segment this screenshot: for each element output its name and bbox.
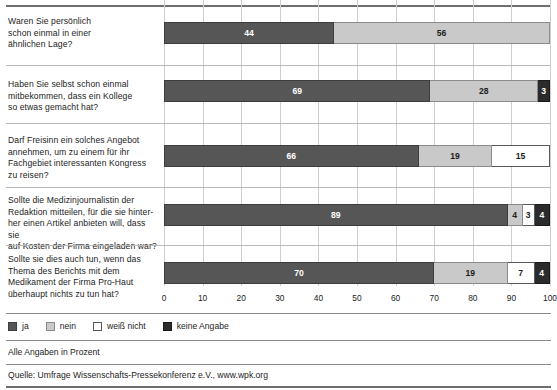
stacked-bar: 661915 (164, 145, 550, 167)
stacked-bar: 69283 (164, 80, 550, 102)
question-label: Haben Sie selbst schon einmalmitbekommen… (8, 79, 158, 114)
bar-segment-ja: 70 (164, 262, 434, 284)
bar-segment-keine: 3 (538, 80, 550, 102)
bar-segment-nein: 56 (334, 22, 550, 44)
legend-item-ja: ja (8, 321, 29, 331)
x-axis-tick: 30 (275, 293, 284, 303)
bar-segment-weissnicht: 3 (523, 204, 535, 226)
x-axis-tick: 90 (507, 293, 516, 303)
bar-segment-ja: 69 (164, 80, 430, 102)
legend-label: weiß nicht (107, 321, 146, 331)
x-axis-tick: 10 (198, 293, 207, 303)
legend-label: nein (60, 321, 76, 331)
bar-segment-nein: 19 (419, 145, 492, 167)
x-axis-tick: 100 (543, 293, 557, 303)
bar-segment-weissnicht: 15 (492, 145, 550, 167)
bar-segment-value: 4 (512, 210, 517, 220)
bar-segment-value: 4 (539, 210, 544, 220)
bar-segment-nein: 19 (434, 262, 507, 284)
bar-segment-value: 7 (518, 268, 523, 278)
bar-segment-value: 69 (292, 86, 302, 96)
bottom-divider (6, 386, 551, 388)
row-divider (6, 65, 551, 66)
bar-segment-value: 89 (331, 210, 341, 220)
x-axis-tick: 40 (314, 293, 323, 303)
legend-item-nein: nein (46, 321, 76, 331)
stacked-bar: 701974 (164, 262, 550, 284)
legend-label: ja (22, 321, 29, 331)
chart-legend: janeinweiß nichtkeine Angabe (8, 318, 246, 334)
chart-sheet: Waren Sie persönlichschon einmal in eine… (0, 0, 557, 390)
bar-segment-value: 28 (479, 86, 489, 96)
row-divider (6, 245, 551, 246)
bar-segment-value: 4 (539, 268, 544, 278)
row-divider (6, 187, 551, 188)
bar-segment-ja: 89 (164, 204, 508, 226)
x-axis-tick: 50 (352, 293, 361, 303)
bar-segment-keine: 4 (535, 204, 550, 226)
bar-segment-value: 15 (516, 151, 526, 161)
legend-item-weissnicht: weiß nicht (93, 321, 146, 331)
question-label: Sollte sie dies auch tun, wenn dasThema … (8, 254, 158, 300)
legend-swatch-ja (8, 322, 17, 331)
bar-segment-nein: 4 (508, 204, 523, 226)
x-axis-tick: 70 (430, 293, 439, 303)
bar-segment-weissnicht: 7 (508, 262, 535, 284)
bar-segment-value: 70 (294, 268, 304, 278)
bar-segment-value: 44 (244, 28, 254, 38)
bar-segment-value: 19 (466, 268, 476, 278)
legend-swatch-nein (46, 322, 55, 331)
source-note: Quelle: Umfrage Wissenschafts-Pressekonf… (8, 370, 268, 380)
legend-bottom-divider (6, 340, 551, 341)
bar-segment-value: 3 (526, 210, 531, 220)
legend-top-divider (6, 313, 551, 314)
bar-segment-nein: 28 (430, 80, 538, 102)
bar-segment-value: 3 (541, 86, 546, 96)
bar-segment-value: 66 (287, 151, 297, 161)
stacked-bar: 89434 (164, 204, 550, 226)
note-divider (6, 364, 551, 365)
x-axis-tick: 80 (468, 293, 477, 303)
x-axis: 0102030405060708090100 (164, 293, 550, 307)
x-axis-tick: 60 (391, 293, 400, 303)
legend-swatch-keine (163, 322, 172, 331)
legend-item-keine: keine Angabe (163, 321, 229, 331)
question-label: Waren Sie persönlichschon einmal in eine… (8, 16, 158, 51)
bar-segment-ja: 66 (164, 145, 419, 167)
unit-note: Alle Angaben in Prozent (8, 347, 100, 357)
bar-segment-ja: 44 (164, 22, 334, 44)
x-axis-tick: 0 (162, 293, 167, 303)
stacked-bar: 4456 (164, 22, 550, 44)
x-axis-tick: 20 (237, 293, 246, 303)
question-label: Darf Freisinn ein solches Angebotannehme… (8, 135, 158, 181)
bar-segment-keine: 4 (535, 262, 550, 284)
legend-label: keine Angabe (177, 321, 229, 331)
bar-segment-value: 56 (437, 28, 447, 38)
bar-segment-value: 19 (450, 151, 460, 161)
stacked-bar-chart: Waren Sie persönlichschon einmal in eine… (0, 7, 557, 293)
legend-swatch-weissnicht (93, 322, 102, 331)
row-divider (6, 123, 551, 124)
